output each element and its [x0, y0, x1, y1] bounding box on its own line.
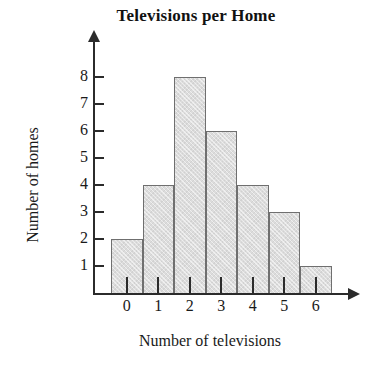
- plot-area: 12345678 0123456: [0, 0, 392, 369]
- y-tick-mark: [95, 238, 104, 240]
- bar: [206, 131, 238, 293]
- x-tick-label: 4: [241, 298, 265, 314]
- y-tick-mark: [95, 184, 104, 186]
- y-tick-mark: [95, 130, 104, 132]
- x-tick-label: 0: [115, 298, 139, 314]
- x-tick-mark: [157, 277, 159, 294]
- y-axis-arrow-icon: [88, 30, 100, 42]
- y-axis-line: [93, 40, 95, 295]
- y-tick-label: 5: [66, 149, 88, 165]
- x-tick-label: 3: [209, 298, 233, 314]
- x-tick-mark: [126, 277, 128, 294]
- x-tick-label: 1: [146, 298, 170, 314]
- y-tick-label: 3: [66, 203, 88, 219]
- x-tick-mark: [283, 277, 285, 294]
- y-tick-label: 8: [66, 68, 88, 84]
- bar: [174, 77, 206, 293]
- histogram-chart: Televisions per Home Number of homes Num…: [0, 0, 392, 369]
- y-tick-mark: [95, 103, 104, 105]
- y-tick-label: 7: [66, 95, 88, 111]
- x-tick-mark: [189, 277, 191, 294]
- y-tick-mark: [95, 76, 104, 78]
- x-tick-mark: [315, 277, 317, 294]
- y-tick-label: 4: [66, 176, 88, 192]
- x-axis-arrow-icon: [348, 288, 360, 300]
- y-tick-label: 6: [66, 122, 88, 138]
- y-tick-mark: [95, 211, 104, 213]
- x-tick-mark: [252, 277, 254, 294]
- y-tick-label: 2: [66, 230, 88, 246]
- x-tick-mark: [220, 277, 222, 294]
- x-tick-label: 5: [272, 298, 296, 314]
- x-tick-label: 2: [178, 298, 202, 314]
- y-tick-label: 1: [66, 257, 88, 273]
- y-tick-mark: [95, 265, 104, 267]
- y-tick-mark: [95, 157, 104, 159]
- x-tick-label: 6: [304, 298, 328, 314]
